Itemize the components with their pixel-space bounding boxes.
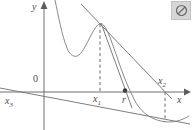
steep-line-at-x1 [101, 23, 132, 108]
root-point-dot [123, 88, 127, 92]
x-axis-arrowhead [184, 88, 191, 95]
x-axis-label: x [177, 95, 181, 105]
x3-label: x3 [5, 96, 13, 109]
corner-badge [171, 1, 191, 20]
x1-label: x1 [93, 94, 101, 107]
x3-label-subscript: 3 [9, 101, 13, 109]
figure-canvas [0, 0, 192, 130]
x2-label: x2 [158, 76, 166, 89]
origin-label: 0 [33, 74, 38, 84]
y-axis-arrowhead [41, 1, 48, 9]
no-entry-icon [175, 4, 188, 17]
x1-label-subscript: 1 [97, 99, 101, 107]
y-axis-label: y [32, 2, 36, 12]
math-figure: y x 0 x1 x2 x3 r [0, 0, 192, 130]
root-label: r [122, 95, 126, 105]
x2-label-subscript: 2 [162, 81, 166, 89]
